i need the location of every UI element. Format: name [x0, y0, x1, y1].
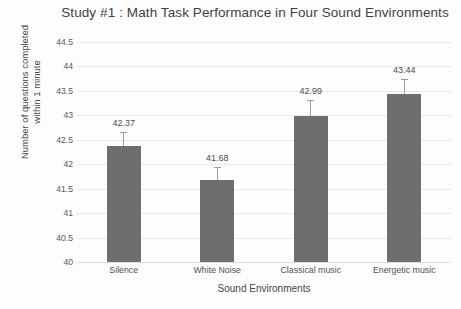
y-tick-label: 44 [29, 61, 73, 71]
y-axis-tick-labels: 44.54443.54342.54241.54140.540 [26, 42, 73, 262]
y-tick-label: 41 [29, 208, 73, 218]
error-bar-cap [307, 100, 314, 101]
data-label: 42.99 [299, 86, 322, 96]
x-tick-label: Silence [77, 265, 171, 275]
plot-area: 42.3741.6842.9943.44 [77, 42, 451, 262]
data-label: 41.68 [206, 153, 229, 163]
bar [200, 180, 234, 262]
error-bar [404, 79, 405, 94]
y-tick-label: 40 [29, 257, 73, 267]
data-label: 42.37 [112, 118, 135, 128]
error-bar-cap [401, 79, 408, 80]
y-tick-label: 43.5 [29, 86, 73, 96]
bar-group: 41.68 [171, 42, 265, 262]
bar [107, 146, 141, 262]
bar [294, 116, 328, 262]
bar [387, 94, 421, 262]
bar-group: 42.37 [77, 42, 171, 262]
error-bar [217, 167, 218, 180]
error-bar-cap [214, 167, 221, 168]
data-label: 43.44 [393, 65, 416, 75]
bar-group: 43.44 [358, 42, 452, 262]
y-tick-label: 40.5 [29, 233, 73, 243]
x-tick-label: Energetic music [358, 265, 452, 275]
y-tick-label: 42 [29, 159, 73, 169]
chart-title-line-1: Study #1 : Math Task Performance in Four… [61, 5, 361, 20]
bar-group: 42.99 [264, 42, 358, 262]
x-axis-title: Sound Environments [77, 283, 451, 294]
error-bar-cap [120, 132, 127, 133]
bar-chart-figure: Study #1 : Math Task Performance in Four… [0, 0, 461, 309]
bar-series: 42.3741.6842.9943.44 [77, 42, 451, 262]
y-tick-label: 43 [29, 110, 73, 120]
error-bar [310, 100, 311, 116]
chart-title-line-2: Environments [365, 5, 449, 20]
y-tick-label: 42.5 [29, 135, 73, 145]
x-tick-label: Classical music [264, 265, 358, 275]
error-bar [123, 132, 124, 146]
y-tick-label: 41.5 [29, 184, 73, 194]
x-tick-label: White Noise [171, 265, 265, 275]
gridline [77, 262, 451, 263]
x-axis-tick-labels: SilenceWhite NoiseClassical musicEnerget… [77, 265, 451, 281]
y-tick-label: 44.5 [29, 37, 73, 47]
chart-title: Study #1 : Math Task Performance in Four… [60, 4, 450, 21]
